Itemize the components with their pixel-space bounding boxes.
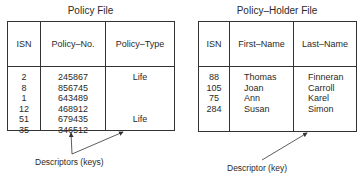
descriptor-arrows: [0, 0, 362, 182]
descriptors-keys-label: Descriptors (keys): [35, 157, 103, 167]
arrow-icon: [71, 132, 307, 160]
descriptor-key-label: Descriptor (key): [227, 163, 287, 173]
